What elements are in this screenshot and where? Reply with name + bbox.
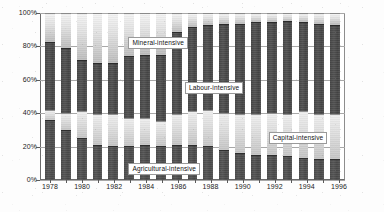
- y-axis-tick-mark: [36, 46, 40, 47]
- stacked-bar[interactable]: [267, 13, 277, 180]
- bar-slot: [74, 13, 90, 180]
- bar-slot: [216, 13, 232, 180]
- bar-segment: [188, 27, 198, 111]
- bar-segment: [93, 114, 103, 144]
- bar-segment: [235, 13, 245, 24]
- bar-segment: [45, 42, 55, 110]
- y-axis-tick-label: 80%: [0, 42, 37, 49]
- bar-slot: [296, 13, 312, 180]
- bar-segment: [108, 63, 118, 115]
- series-label: Agricultural-intensive: [128, 163, 200, 175]
- bar-slot: [280, 13, 296, 180]
- bar-slot: [58, 13, 74, 180]
- bar-segment: [93, 145, 103, 180]
- bar-slot: [248, 13, 264, 180]
- bar-segment: [61, 113, 71, 130]
- bar-slot: [200, 13, 216, 180]
- bar-slot: [42, 13, 58, 180]
- bar-slot: [327, 13, 343, 180]
- stacked-bar[interactable]: [330, 13, 340, 180]
- x-axis-tick-label: 1980: [67, 183, 97, 190]
- bar-segment: [299, 158, 309, 180]
- bar-segment: [283, 21, 293, 115]
- series-label: Labour-intensive: [185, 82, 243, 94]
- bar-segment: [45, 13, 55, 42]
- bar-segment: [45, 120, 55, 180]
- bar-segment: [156, 121, 166, 146]
- y-axis-tick-mark: [36, 180, 40, 181]
- x-axis-tick-label: 1996: [324, 183, 354, 190]
- y-axis-tick-mark: [36, 13, 40, 14]
- x-axis-tick-label: 1986: [163, 183, 193, 190]
- series-label: Mineral-intensive: [128, 37, 188, 49]
- stacked-bar[interactable]: [219, 13, 229, 180]
- y-axis-tick-mark: [36, 113, 40, 114]
- stacked-bar[interactable]: [203, 13, 213, 180]
- y-axis-tick-label: 0%: [0, 176, 37, 183]
- bar-segment: [124, 118, 134, 147]
- stacked-bar[interactable]: [188, 13, 198, 180]
- bar-slot: [105, 13, 121, 180]
- stacked-bar[interactable]: [314, 13, 324, 180]
- bar-segment: [108, 114, 118, 146]
- stacked-bar[interactable]: [283, 13, 293, 180]
- bar-segment: [330, 13, 340, 25]
- bar-segment: [61, 48, 71, 113]
- bar-segment: [267, 22, 277, 113]
- bar-group: [40, 13, 345, 180]
- bar-segment: [299, 13, 309, 22]
- series-label: Capital-intensive: [269, 132, 328, 144]
- stacked-bar[interactable]: [77, 13, 87, 180]
- bar-slot: [232, 13, 248, 180]
- bar-segment: [93, 63, 103, 115]
- bar-segment: [108, 13, 118, 63]
- x-axis-tick-label: 1978: [35, 183, 65, 190]
- bar-segment: [219, 13, 229, 24]
- y-axis-tick-label: 60%: [0, 76, 37, 83]
- bar-segment: [235, 24, 245, 115]
- bar-segment: [235, 153, 245, 180]
- stacked-bar[interactable]: [108, 13, 118, 180]
- bar-segment: [203, 146, 213, 180]
- bar-segment: [267, 155, 277, 180]
- bar-segment: [219, 150, 229, 180]
- bar-segment: [124, 56, 134, 117]
- stacked-bar[interactable]: [299, 13, 309, 180]
- x-axis-tick-label: 1990: [228, 183, 258, 190]
- stacked-bar[interactable]: [93, 13, 103, 180]
- bar-segment: [188, 13, 198, 27]
- bar-segment: [314, 159, 324, 180]
- bar-segment: [314, 13, 324, 24]
- gridline-0: [40, 180, 345, 181]
- stacked-bar[interactable]: [235, 13, 245, 180]
- bar-slot: [90, 13, 106, 180]
- stacked-bar[interactable]: [251, 13, 261, 180]
- bar-segment: [330, 114, 340, 159]
- bar-segment: [219, 113, 229, 150]
- y-axis-tick-label: 20%: [0, 143, 37, 150]
- bar-segment: [77, 13, 87, 60]
- bar-segment: [140, 55, 150, 118]
- bar-segment: [45, 110, 55, 121]
- bar-segment: [283, 156, 293, 180]
- bar-segment: [108, 146, 118, 180]
- bar-segment: [61, 130, 71, 180]
- bar-segment: [61, 13, 71, 48]
- stacked-bar[interactable]: [61, 13, 71, 180]
- bar-segment: [267, 13, 277, 22]
- bar-segment: [283, 13, 293, 21]
- bar-segment: [156, 55, 166, 121]
- bar-segment: [172, 13, 182, 32]
- bar-segment: [299, 22, 309, 111]
- y-axis-tick-mark: [36, 80, 40, 81]
- x-axis-tick-label: 1992: [260, 183, 290, 190]
- stacked-bar[interactable]: [45, 13, 55, 180]
- bar-segment: [203, 110, 213, 147]
- bar-segment: [203, 25, 213, 109]
- bar-segment: [93, 13, 103, 63]
- y-axis-tick-mark: [36, 147, 40, 148]
- bar-segment: [188, 111, 198, 145]
- x-axis-tick-label: 1988: [196, 183, 226, 190]
- plot-area: Mineral-intensiveLabour-intensiveCapital…: [40, 13, 345, 180]
- bar-segment: [251, 22, 261, 114]
